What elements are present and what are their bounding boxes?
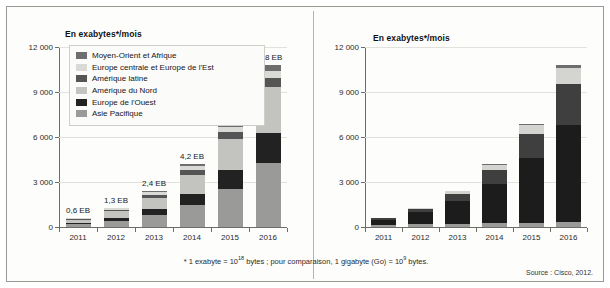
x-tick-mark [135,228,136,232]
bar-segment [519,134,544,158]
y-tick-label: 6 000 [339,133,359,142]
y-tick-mark [55,47,59,48]
source-label: Source : Cisco, 2012. [526,269,593,276]
y-tick-label: 9 000 [33,88,53,97]
figure-container: En exabytes*/mois 03 0006 0009 00012 000… [6,6,604,282]
x-tick-label: 2016 [560,233,578,242]
x-tick-label: 2014 [183,233,201,242]
bar-segment [556,84,581,125]
bar-2015[interactable] [519,124,544,227]
x-tick-label: 2012 [412,233,430,242]
bar-segment [408,224,433,227]
x-tick-mark [249,228,250,232]
legend-swatch-icon [76,52,87,59]
x-tick-mark [365,228,366,232]
bar-segment [556,68,581,84]
bar-segment [519,223,544,227]
x-tick-label: 2012 [107,233,125,242]
legend-item[interactable]: Asie Pacifique [76,108,256,120]
footnote: * 1 exabyte = 1018 bytes ; pour comparai… [7,255,605,266]
bar-value-label: 0,6 EB [66,206,90,215]
y-tick-mark [361,47,365,48]
bar-segment [556,125,581,223]
bar-segment [180,205,205,227]
gridline [365,137,587,138]
x-tick-mark [476,228,477,232]
gridline [59,137,287,138]
bar-2011[interactable] [371,218,396,227]
y-tick-label: 6 000 [33,133,53,142]
legend-label: Moyen-Orient et Afrique [92,51,176,60]
x-tick-mark [587,228,588,232]
bar-value-label: 1,3 EB [104,196,128,205]
x-tick-label: 2014 [486,233,504,242]
bar-2014[interactable] [482,164,507,227]
bar-segment [142,215,167,227]
x-tick-label: 2015 [221,233,239,242]
y-tick-label: 3 000 [339,178,359,187]
x-tick-mark [550,228,551,232]
legend-item[interactable]: Amérique du Nord [76,85,256,97]
bar-segment [445,194,470,201]
y-tick-label: 3 000 [33,178,53,187]
legend-item[interactable]: Europe centrale et Europe de l'Est [76,62,256,74]
chart-right-plot-area: 03 0006 0009 00012 000201120122013201420… [365,47,587,228]
bar-segment [519,125,544,135]
bar-segment [142,198,167,209]
x-tick-mark [402,228,403,232]
bar-segment [256,133,281,162]
chart-panel-right: En exabytes*/mois 03 0006 0009 00012 000… [313,7,605,253]
bar-segment [408,212,433,224]
legend-label: Europe centrale et Europe de l'Est [92,63,214,72]
bar-2012[interactable] [104,208,129,227]
bar-segment [445,224,470,227]
legend-item[interactable]: Moyen-Orient et Afrique [76,50,256,62]
bar-2015[interactable] [218,124,243,227]
bar-value-label: 2,4 EB [142,179,166,188]
x-tick-label: 2013 [449,233,467,242]
bar-segment [104,221,129,227]
bar-segment [180,194,205,205]
bar-2013[interactable] [142,191,167,227]
legend-label: Asie Pacifique [92,109,143,118]
x-tick-mark [211,228,212,232]
chart-left-axis-title: En exabytes*/mois [65,29,142,39]
x-tick-mark [59,228,60,232]
bar-segment [445,201,470,224]
bar-value-label: 4,2 EB [180,152,204,161]
y-tick-mark [361,182,365,183]
y-tick-label: 0 [355,223,359,232]
y-tick-label: 12 000 [335,43,359,52]
chart-right-axis-title: En exabytes*/mois [373,33,450,43]
bar-segment [519,158,544,223]
footnote-prefix: * 1 exabyte = 10 [184,257,238,266]
bar-2011[interactable] [66,218,91,227]
x-tick-label: 2016 [259,233,277,242]
bar-segment [556,222,581,227]
x-tick-mark [513,228,514,232]
footnote-middle: bytes ; pour comparaison, 1 gigabyte (Go… [244,257,403,266]
y-tick-label: 9 000 [339,88,359,97]
bar-2013[interactable] [445,191,470,227]
legend-swatch-icon [76,110,87,117]
footnote-suffix: bytes. [406,257,428,266]
gridline [365,182,587,183]
bar-2016[interactable] [556,65,581,227]
legend-swatch-icon [76,87,87,94]
legend-swatch-icon [76,64,87,71]
x-tick-label: 2011 [375,233,392,242]
bar-2014[interactable] [180,164,205,227]
x-tick-mark [287,228,288,232]
legend-swatch-icon [76,99,87,106]
bar-segment [180,175,205,195]
y-tick-mark [55,137,59,138]
bar-segment [66,224,91,227]
x-tick-label: 2013 [145,233,163,242]
bar-segment [256,163,281,228]
bar-2012[interactable] [408,208,433,227]
gridline [59,182,287,183]
chart-panel-left: En exabytes*/mois 03 0006 0009 00012 000… [7,7,313,253]
x-tick-mark [97,228,98,232]
legend-item[interactable]: Amérique latine [76,73,256,85]
legend-item[interactable]: Europe de l'Ouest [76,96,256,108]
